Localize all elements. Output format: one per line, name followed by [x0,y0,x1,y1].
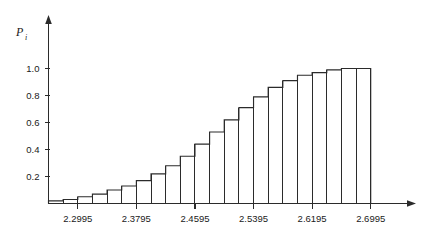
x-tick-labels: 2.29952.37952.45952.53952.61952.6995 [63,213,385,224]
y-tick-label: 0.4 [26,144,39,155]
plot-area: P i 0.20.40.60.81.0 2.29952.37952.45952.… [0,0,425,245]
y-axis-label-base: P [15,25,24,39]
y-tick-labels: 0.20.40.60.81.0 [26,63,39,182]
x-tick-label: 2.4595 [180,213,209,224]
y-axis-label-subscript: i [25,33,27,42]
histogram-bars [49,69,371,204]
horizontal-axis [49,200,417,207]
y-tick-label: 0.6 [26,117,39,128]
x-axis-arrowhead [407,200,416,207]
y-tick-label: 0.2 [26,171,39,182]
cumulative-probability-chart: P i 0.20.40.60.81.0 2.29952.37952.45952.… [0,0,425,245]
y-axis-arrowhead [45,15,52,24]
x-tick-label: 2.6195 [298,213,327,224]
x-tick-label: 2.3795 [122,213,151,224]
y-axis-label: P i [15,25,27,42]
y-tick-label: 1.0 [26,63,39,74]
x-tick-label: 2.6995 [356,213,385,224]
vertical-axis [45,15,52,204]
x-tick-label: 2.2995 [63,213,92,224]
x-tick-label: 2.5395 [239,213,268,224]
y-tick-label: 0.8 [26,90,39,101]
